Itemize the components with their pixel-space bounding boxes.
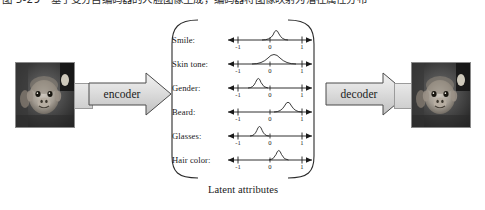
input-face-graphic — [16, 63, 74, 127]
latent-axis-graphic: -1 0 1 — [226, 122, 314, 146]
latent-axis-graphic: -1 0 1 — [226, 98, 314, 122]
latent-distribution-axis: -1 0 1 — [226, 98, 314, 122]
latent-distribution-axis: -1 0 1 — [226, 26, 314, 50]
latent-tick-zero: 0 — [268, 67, 272, 74]
latent-tick-plus1: 1 — [300, 163, 303, 170]
latent-tick-plus1: 1 — [300, 67, 303, 74]
latent-axis-graphic: -1 0 1 — [226, 26, 314, 50]
encoder-arrow: encoder — [88, 71, 172, 117]
output-face-image — [411, 62, 471, 128]
latent-tick-zero: 0 — [268, 43, 272, 50]
latent-tick-zero: 0 — [268, 139, 272, 146]
latent-attribute-label: Hair color: — [172, 155, 226, 165]
latent-attribute-label: Beard: — [172, 107, 226, 117]
latent-tick-zero: 0 — [268, 91, 272, 98]
latent-distribution-axis: -1 0 1 — [226, 74, 314, 98]
latent-row: Smile: -1 0 1 — [168, 26, 318, 50]
page-header-text: 图 5-29 基于变分自编码器的人脸图像生成，编码器将图像映射为潜在属性分布 — [2, 0, 367, 6]
latent-tick-plus1: 1 — [300, 115, 303, 122]
latent-axis-graphic: -1 0 1 — [226, 146, 314, 170]
latent-rows-container: Smile: -1 0 1 Skin tone: — [168, 26, 318, 170]
output-face-graphic — [412, 63, 470, 127]
latent-tick-minus1: -1 — [235, 163, 241, 170]
latent-row: Beard: -1 0 1 — [168, 98, 318, 122]
latent-tick-zero: 0 — [268, 115, 272, 122]
page-header-text-strip: 图 5-29 基于变分自编码器的人脸图像生成，编码器将图像映射为潜在属性分布 — [0, 0, 485, 11]
latent-distribution-axis: -1 0 1 — [226, 122, 314, 146]
latent-row: Gender: -1 0 1 — [168, 74, 318, 98]
latent-tick-plus1: 1 — [300, 91, 303, 98]
input-face-image — [15, 62, 75, 128]
latent-tick-plus1: 1 — [300, 43, 303, 50]
latent-tick-minus1: -1 — [235, 115, 241, 122]
latent-attribute-label: Smile: — [172, 35, 226, 45]
latent-tick-minus1: -1 — [235, 43, 241, 50]
latent-axis-graphic: -1 0 1 — [226, 74, 314, 98]
latent-row: Hair color: -1 0 1 — [168, 146, 318, 170]
latent-attributes-panel: Smile: -1 0 1 Skin tone: — [168, 18, 318, 180]
latent-row: Glasses: -1 0 1 — [168, 122, 318, 146]
latent-distribution-axis: -1 0 1 — [226, 146, 314, 170]
latent-tick-minus1: -1 — [235, 91, 241, 98]
latent-tick-minus1: -1 — [235, 139, 241, 146]
latent-attribute-label: Skin tone: — [172, 59, 226, 69]
latent-tick-minus1: -1 — [235, 67, 241, 74]
latent-tick-plus1: 1 — [300, 139, 303, 146]
latent-attribute-label: Gender: — [172, 83, 226, 93]
latent-attributes-caption: Latent attributes — [168, 184, 318, 195]
decoder-label: decoder — [325, 71, 393, 117]
encoder-label: encoder — [88, 71, 156, 117]
latent-distribution-axis: -1 0 1 — [226, 50, 314, 74]
latent-axis-graphic: -1 0 1 — [226, 50, 314, 74]
latent-tick-zero: 0 — [268, 163, 272, 170]
latent-row: Skin tone: -1 0 1 — [168, 50, 318, 74]
latent-attribute-label: Glasses: — [172, 131, 226, 141]
